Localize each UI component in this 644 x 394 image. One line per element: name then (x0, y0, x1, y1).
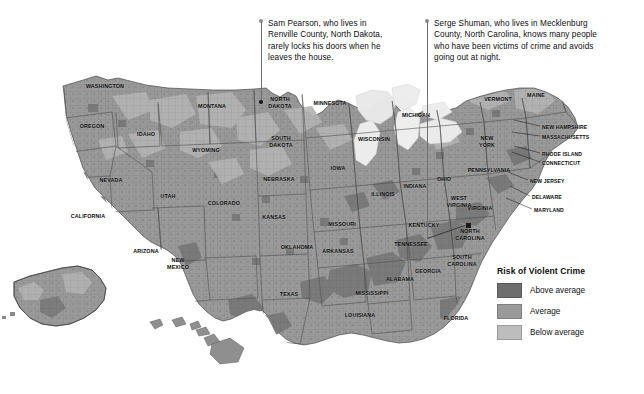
svg-text:COLORADO: COLORADO (208, 200, 240, 206)
annotation-sam-pearson-leader (261, 22, 262, 102)
svg-text:MISSOURI: MISSOURI (328, 221, 356, 227)
svg-text:NORTH: NORTH (460, 228, 480, 234)
svg-text:MISSISSIPPI: MISSISSIPPI (355, 290, 389, 296)
legend-item-average: Average (497, 304, 639, 319)
svg-text:DAKOTA: DAKOTA (269, 142, 292, 148)
svg-text:IOWA: IOWA (331, 165, 346, 171)
svg-text:VERMONT: VERMONT (484, 96, 512, 102)
svg-text:GEORGIA: GEORGIA (415, 268, 441, 274)
svg-text:MARYLAND: MARYLAND (534, 207, 564, 213)
svg-text:VIRGINIA: VIRGINIA (447, 202, 472, 208)
svg-text:PENNSYLVANIA: PENNSYLVANIA (468, 167, 511, 173)
svg-text:MICHIGAN: MICHIGAN (402, 112, 430, 118)
legend-title: Risk of Violent Crime (497, 266, 639, 276)
svg-text:WASHINGTON: WASHINGTON (86, 83, 124, 89)
legend-item-below-average: Below average (497, 325, 639, 340)
svg-text:MEXICO: MEXICO (167, 264, 189, 270)
svg-text:TEXAS: TEXAS (280, 291, 299, 297)
svg-text:TENNESSEE: TENNESSEE (394, 241, 428, 247)
svg-text:FLORIDA: FLORIDA (444, 315, 469, 321)
svg-text:IDAHO: IDAHO (137, 131, 155, 137)
legend-label-below-average: Below average (530, 328, 584, 337)
svg-text:OKLAHOMA: OKLAHOMA (281, 244, 314, 250)
legend-swatch-above-average (497, 283, 522, 298)
svg-text:CONNECTICUT: CONNECTICUT (542, 160, 581, 166)
svg-text:ARIZONA: ARIZONA (133, 248, 158, 254)
svg-text:MINNESOTA: MINNESOTA (314, 100, 347, 106)
svg-text:NORTH: NORTH (270, 96, 290, 102)
svg-text:NEW: NEW (481, 135, 495, 141)
annotation-serge-shuman: Serge Shuman, who lives in Mecklenburg C… (434, 18, 642, 64)
svg-text:MONTANA: MONTANA (198, 103, 226, 109)
svg-text:DELAWARE: DELAWARE (532, 194, 562, 200)
svg-text:SOUTH: SOUTH (271, 135, 290, 141)
annotation-serge-shuman-leader (427, 22, 428, 238)
svg-text:OREGON: OREGON (80, 123, 105, 129)
alaska-inset (2, 266, 106, 326)
hawaii-inset (150, 317, 244, 364)
annotation-sam-pearson-target-dot (259, 100, 263, 104)
svg-text:INDIANA: INDIANA (403, 183, 426, 189)
svg-text:NEBRASKA: NEBRASKA (263, 176, 294, 182)
svg-text:RHODE ISLAND: RHODE ISLAND (542, 151, 582, 157)
map-figure: WASHINGTON OREGON IDAHO MONTANA WYOMING … (0, 0, 644, 394)
svg-text:NEW: NEW (172, 257, 186, 263)
svg-text:SOUTH: SOUTH (452, 254, 471, 260)
svg-text:DAKOTA: DAKOTA (268, 103, 291, 109)
svg-text:ILLINOIS: ILLINOIS (371, 191, 395, 197)
annotation-sam-pearson-text: Sam Pearson, who lives in Renville Count… (268, 18, 418, 64)
svg-text:ARKANSAS: ARKANSAS (322, 248, 354, 254)
legend-label-above-average: Above average (530, 286, 585, 295)
legend-label-average: Average (530, 307, 560, 316)
svg-text:LOUISIANA: LOUISIANA (345, 312, 376, 318)
svg-text:OHIO: OHIO (437, 176, 451, 182)
svg-text:NEVADA: NEVADA (99, 177, 122, 183)
svg-text:UTAH: UTAH (160, 193, 175, 199)
legend-swatch-below-average (497, 325, 522, 340)
svg-text:CAROLINA: CAROLINA (455, 235, 484, 241)
legend-item-above-average: Above average (497, 283, 639, 298)
svg-text:WYOMING: WYOMING (192, 147, 220, 153)
svg-text:KENTUCKY: KENTUCKY (409, 222, 440, 228)
svg-text:WEST: WEST (451, 195, 468, 201)
legend: Risk of Violent Crime Above average Aver… (497, 266, 639, 346)
svg-text:KANSAS: KANSAS (262, 214, 286, 220)
svg-text:WISCONSIN: WISCONSIN (358, 136, 390, 142)
svg-text:YORK: YORK (479, 142, 495, 148)
annotation-sam-pearson: Sam Pearson, who lives in Renville Count… (268, 18, 418, 64)
svg-text:MASSACHUSETTS: MASSACHUSETTS (542, 134, 590, 140)
svg-text:NEW HAMPSHIRE: NEW HAMPSHIRE (542, 124, 588, 130)
svg-text:NEW JERSEY: NEW JERSEY (530, 178, 565, 184)
legend-swatch-average (497, 304, 522, 319)
svg-text:CALIFORNIA: CALIFORNIA (71, 213, 105, 219)
annotation-serge-shuman-text: Serge Shuman, who lives in Mecklenburg C… (434, 18, 642, 64)
svg-text:CAROLINA: CAROLINA (447, 261, 476, 267)
annotation-serge-shuman-target-marker (466, 223, 471, 228)
svg-text:MAINE: MAINE (527, 92, 545, 98)
svg-text:ALABAMA: ALABAMA (386, 276, 414, 282)
